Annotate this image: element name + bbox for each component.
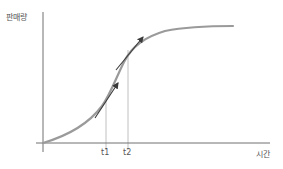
t2-label: t2 xyxy=(123,148,131,157)
tangent-arrow-t1 xyxy=(95,83,118,118)
y-axis-label: 판매량 xyxy=(6,11,27,22)
tangent-arrow-t2 xyxy=(116,37,143,70)
s-curve-diagram xyxy=(0,0,283,169)
x-axis-label: 시간 xyxy=(256,148,270,159)
t1-label: t1 xyxy=(101,148,109,157)
